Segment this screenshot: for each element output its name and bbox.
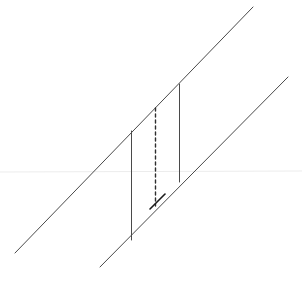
geometric-figure bbox=[0, 0, 302, 286]
canvas-background bbox=[0, 0, 302, 286]
diagram-canvas bbox=[0, 0, 302, 286]
